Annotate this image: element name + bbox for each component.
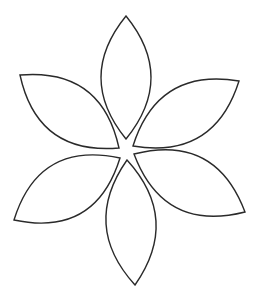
flower-petals (14, 16, 245, 285)
petal-lower-left (14, 155, 120, 223)
flower-drawing (0, 0, 260, 299)
